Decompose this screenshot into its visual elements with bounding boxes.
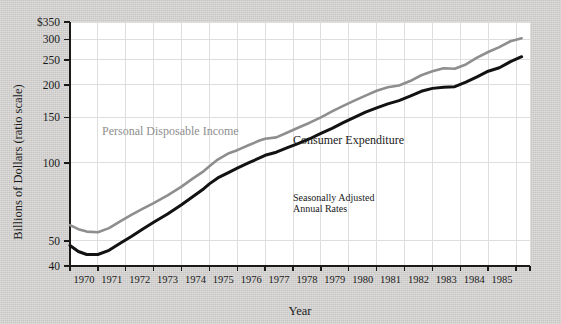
x-tick-label: 1978: [296, 274, 317, 285]
x-tick-label: 1974: [185, 274, 207, 285]
chart-figure: 4050100150200250300$350 1970197119721973…: [0, 0, 561, 324]
x-tick-labels: 1970197119721973197419751976197719781979…: [73, 274, 512, 285]
y-tick-label: 250: [43, 54, 61, 66]
x-tick-label: 1984: [464, 274, 486, 285]
x-tick-label: 1975: [213, 274, 234, 285]
x-tick-label: 1971: [101, 274, 122, 285]
x-axis-title: Year: [288, 304, 312, 318]
series-label-consumer-expenditure: Consumer Expenditure: [293, 133, 404, 147]
line-chart: 4050100150200250300$350 1970197119721973…: [0, 0, 561, 324]
series-label-personal-disposable-income: Personal Disposable Income: [102, 124, 239, 138]
seasonal-note-line2: Annual Rates: [293, 203, 347, 214]
y-tick-label: 150: [43, 111, 61, 123]
seasonal-note-line1: Seasonally Adjusted: [293, 192, 374, 203]
x-tick-label: 1981: [380, 274, 401, 285]
x-tick-label: 1983: [436, 274, 457, 285]
x-tick-label: 1976: [241, 274, 262, 285]
x-tick-label: 1977: [269, 274, 290, 285]
y-tick-label: 40: [49, 260, 61, 272]
x-tick-label: 1970: [73, 274, 94, 285]
x-tick-label: 1972: [129, 274, 150, 285]
y-tick-label: 300: [43, 33, 61, 45]
y-tick-label: 50: [49, 235, 61, 247]
x-tick-label: 1979: [324, 274, 345, 285]
x-tick-label: 1985: [492, 274, 513, 285]
y-tick-labels: 4050100150200250300$350: [37, 16, 60, 272]
y-tick-label: $350: [37, 16, 60, 28]
x-tick-label: 1980: [352, 274, 373, 285]
x-tick-label: 1973: [157, 274, 178, 285]
x-tick-label: 1982: [408, 274, 429, 285]
y-tick-label: 100: [43, 157, 61, 169]
y-tick-label: 200: [43, 79, 61, 91]
y-axis-title: Billions of Dollars (ratio scale): [11, 84, 25, 240]
